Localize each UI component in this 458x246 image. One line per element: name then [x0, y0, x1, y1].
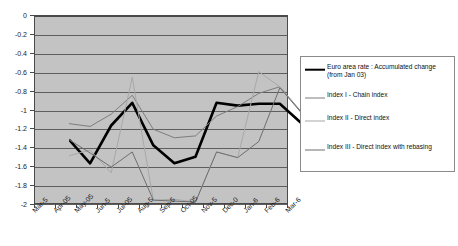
x-axis-label: Feb-6 [263, 196, 282, 215]
chart-screenshot: 0-0.2-0.4-0.6-0.8-1-1.2-1.4-1.6-1.8-2 Ma… [0, 0, 458, 246]
x-axis-label: Apr-05 [52, 194, 73, 215]
legend-item-1[interactable]: Euro area rate : Accumulated change (fro… [304, 63, 436, 80]
x-axis-label: Dec-0 [221, 196, 240, 215]
x-axis-label: Jul-05 [115, 196, 134, 215]
legend-item-4[interactable]: Index III - Direct index with rebasing [304, 143, 432, 154]
x-axis-label: Aug-5 [136, 196, 155, 215]
x-axis-label: Mar-6 [284, 196, 303, 215]
x-axis-label: Mar-5 [31, 196, 50, 215]
legend-line-swatch [304, 116, 326, 125]
x-axis-label: Nov-5 [200, 196, 219, 215]
legend-item-label: Index II - Direct index [327, 114, 389, 122]
x-axis-label: Jan-6 [242, 197, 260, 215]
legend-item-label: Euro area rate : Accumulated change (fro… [327, 63, 436, 80]
legend-line-swatch [304, 145, 326, 154]
legend-line-swatch [304, 65, 326, 74]
legend-item-label: Index I - Chain index [327, 91, 387, 99]
legend-item-3[interactable]: Index II - Direct index [304, 114, 389, 125]
legend-item-2[interactable]: Index I - Chain index [304, 91, 387, 102]
x-axis-label: Oct-05 [179, 194, 200, 215]
x-axis-labels: Mar-5Apr-05May-05Jun-5Jul-05Aug-5Sep-5Oc… [0, 0, 300, 246]
x-axis-label: May-05 [73, 192, 95, 214]
line-chart: 0-0.2-0.4-0.6-0.8-1-1.2-1.4-1.6-1.8-2 Ma… [0, 0, 300, 246]
chart-legend: Euro area rate : Accumulated change (fro… [300, 56, 455, 172]
x-axis-label: Sep-5 [158, 196, 177, 215]
x-axis-label: Jun-5 [94, 197, 112, 215]
legend-item-label: Index III - Direct index with rebasing [327, 143, 432, 151]
legend-line-swatch [304, 93, 326, 102]
